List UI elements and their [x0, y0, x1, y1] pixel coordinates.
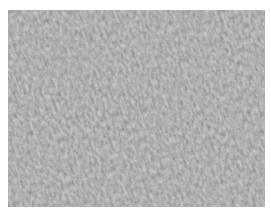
micrograph-image — [8, 10, 265, 207]
cell-texture — [8, 10, 265, 207]
